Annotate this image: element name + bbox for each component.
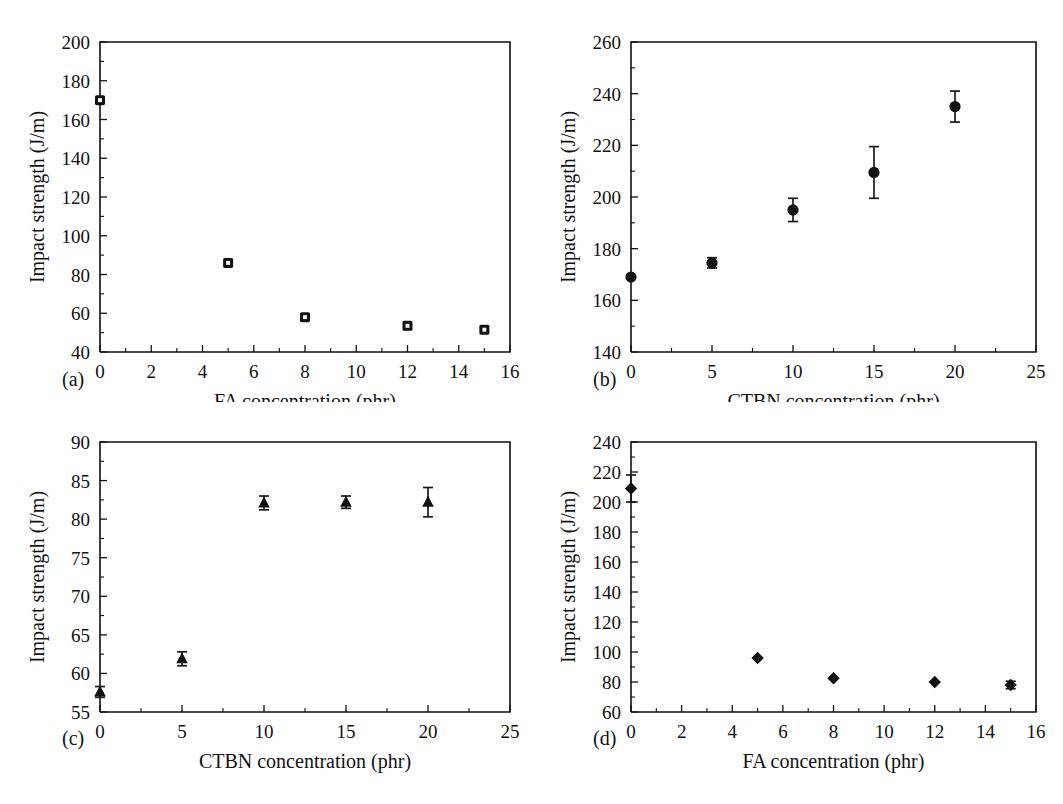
- x-tick-label: 8: [829, 721, 839, 742]
- panel-a-plot: 4060801001201401601802000246810121416FA …: [0, 0, 531, 402]
- panel-c: 55606570758085900510152025CTBN concentra…: [0, 402, 531, 804]
- x-tick-label: 2: [147, 361, 157, 382]
- data-point-marker: [176, 652, 188, 663]
- x-tick-label: 12: [925, 721, 944, 742]
- panel-a: 4060801001201401601802000246810121416FA …: [0, 0, 531, 402]
- data-point-marker: [868, 167, 879, 178]
- y-tick-label: 240: [593, 432, 622, 453]
- y-tick-label: 260: [593, 32, 622, 53]
- data-point-marker-center: [406, 324, 410, 328]
- y-tick-label: 180: [593, 522, 622, 543]
- figure-four-panel-impact-strength: 4060801001201401601802000246810121416FA …: [0, 0, 1063, 804]
- data-point-marker: [340, 496, 352, 507]
- data-point-marker-center: [98, 98, 102, 102]
- y-axis-title: Impact strength (J/m): [557, 111, 580, 283]
- x-tick-label: 16: [1027, 721, 1046, 742]
- data-point-marker: [827, 672, 839, 684]
- x-tick-label: 10: [875, 721, 894, 742]
- y-tick-label: 80: [71, 265, 90, 286]
- data-point-marker: [625, 271, 636, 282]
- y-tick-label: 200: [593, 187, 622, 208]
- x-tick-label: 0: [95, 361, 105, 382]
- x-axis-title: CTBN concentration (phr): [199, 750, 411, 773]
- x-tick-label: 5: [177, 721, 187, 742]
- y-tick-label: 220: [593, 462, 622, 483]
- y-tick-label: 140: [593, 342, 622, 363]
- data-point-marker: [422, 496, 434, 507]
- y-tick-label: 40: [71, 342, 90, 363]
- x-axis-title: FA concentration (phr): [743, 750, 925, 773]
- x-tick-label: 25: [1027, 361, 1046, 382]
- x-tick-label: 0: [626, 721, 636, 742]
- x-tick-label: 4: [198, 361, 208, 382]
- data-point-marker-center: [303, 315, 307, 319]
- x-tick-label: 12: [398, 361, 417, 382]
- plot-frame: [631, 442, 1036, 712]
- x-tick-label: 2: [677, 721, 687, 742]
- data-point-marker: [258, 497, 270, 508]
- y-tick-label: 140: [62, 148, 91, 169]
- x-axis-title: FA concentration (phr): [214, 390, 396, 402]
- panel-b-plot: 1401601802002202402600510152025CTBN conc…: [531, 0, 1063, 402]
- x-tick-label: 25: [501, 721, 520, 742]
- x-tick-label: 10: [784, 361, 803, 382]
- x-tick-label: 10: [255, 721, 274, 742]
- y-tick-label: 80: [602, 672, 621, 693]
- y-tick-label: 75: [71, 548, 90, 569]
- x-tick-label: 8: [300, 361, 310, 382]
- plot-frame: [100, 42, 510, 352]
- x-tick-label: 0: [95, 721, 105, 742]
- x-tick-label: 6: [249, 361, 259, 382]
- y-tick-label: 120: [593, 612, 622, 633]
- y-tick-label: 180: [593, 239, 622, 260]
- y-tick-label: 60: [602, 702, 621, 723]
- data-point-marker: [929, 676, 941, 688]
- x-tick-label: 10: [347, 361, 366, 382]
- y-tick-label: 240: [593, 84, 622, 105]
- panel-d-letter: (d): [593, 727, 616, 750]
- y-tick-label: 90: [71, 432, 90, 453]
- plot-frame: [631, 42, 1036, 352]
- panel-c-letter: (c): [62, 727, 84, 750]
- y-tick-label: 60: [71, 303, 90, 324]
- y-axis-title: Impact strength (J/m): [26, 111, 49, 283]
- panel-b: 1401601802002202402600510152025CTBN conc…: [531, 0, 1063, 402]
- data-point-marker: [751, 652, 763, 664]
- y-axis-title: Impact strength (J/m): [557, 491, 580, 663]
- y-tick-label: 55: [71, 702, 90, 723]
- plot-frame: [100, 442, 510, 712]
- y-tick-label: 100: [593, 642, 622, 663]
- x-tick-label: 15: [337, 721, 356, 742]
- y-tick-label: 100: [62, 226, 91, 247]
- y-tick-label: 160: [593, 552, 622, 573]
- y-tick-label: 80: [71, 509, 90, 530]
- data-point-marker: [625, 482, 637, 494]
- y-axis-title: Impact strength (J/m): [26, 491, 49, 663]
- y-tick-label: 65: [71, 625, 90, 646]
- x-tick-label: 0: [626, 361, 636, 382]
- x-tick-label: 16: [501, 361, 520, 382]
- y-tick-label: 140: [593, 582, 622, 603]
- x-tick-label: 20: [946, 361, 965, 382]
- panel-b-letter: (b): [593, 368, 616, 391]
- x-tick-label: 14: [449, 361, 469, 382]
- y-tick-label: 70: [71, 586, 90, 607]
- y-tick-label: 180: [62, 71, 91, 92]
- x-axis-title: CTBN concentration (phr): [727, 390, 939, 402]
- y-tick-label: 200: [62, 32, 91, 53]
- x-tick-label: 15: [865, 361, 884, 382]
- x-tick-label: 4: [728, 721, 738, 742]
- y-tick-label: 160: [62, 110, 91, 131]
- data-point-marker-center: [226, 261, 230, 265]
- data-point-marker: [787, 204, 798, 215]
- y-tick-label: 60: [71, 663, 90, 684]
- panel-d: 6080100120140160180200220240024681012141…: [531, 402, 1063, 804]
- data-point-marker-center: [482, 328, 486, 332]
- y-tick-label: 85: [71, 471, 90, 492]
- y-tick-label: 120: [62, 187, 91, 208]
- x-tick-label: 6: [778, 721, 788, 742]
- y-tick-label: 160: [593, 290, 622, 311]
- x-tick-label: 14: [976, 721, 996, 742]
- x-tick-label: 20: [419, 721, 438, 742]
- panel-a-letter: (a): [62, 368, 84, 391]
